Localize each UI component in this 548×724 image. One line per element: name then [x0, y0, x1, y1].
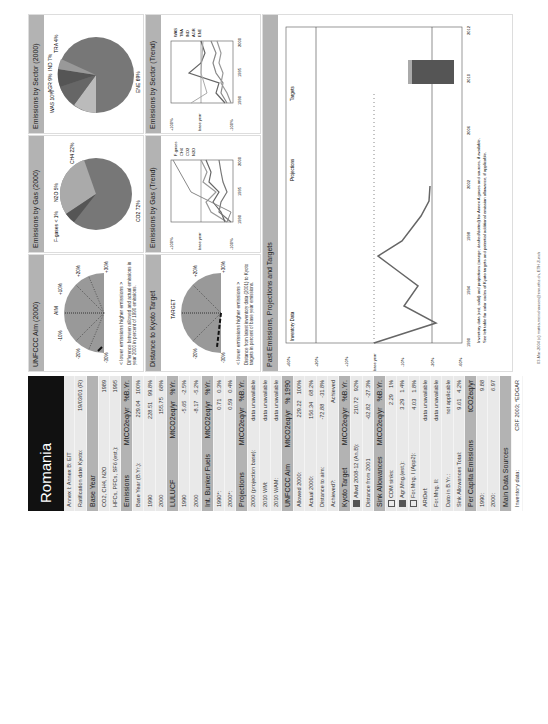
svg-text:-20%: -20%: [430, 357, 435, 367]
value-pct: % 1990: [284, 380, 291, 404]
gauge-caption: Difference between allowed and actual em…: [124, 255, 140, 371]
label-text: Allowed 2000:: [296, 472, 302, 507]
row-values: MtCO2eq/yr%Yr.: [169, 380, 176, 439]
value-pct: data unavailable: [433, 380, 439, 421]
label-text: ARtDef:: [422, 487, 428, 507]
label-text: Dato in B.Yr.:: [445, 474, 451, 507]
label-text: 1990*:: [216, 491, 222, 507]
value-abs: 210.72: [353, 397, 359, 414]
svg-text:-100%: -100%: [229, 238, 234, 250]
value-abs: 0.71: [216, 399, 222, 410]
sidebar-row: 1990*:0.710.3%: [214, 376, 225, 511]
row-label: 1990: [147, 495, 153, 507]
row-values: 2.291%: [388, 380, 394, 405]
label-text: 2000: [193, 495, 199, 507]
svg-text:TARGET: TARGET: [170, 299, 176, 319]
label-text: Ratification date Kyoto:: [77, 449, 83, 507]
row-values: 155.7568%: [158, 380, 164, 414]
sidebar-section-header: Int. Bunker FuelsMtCO2eq/yr%Yr.: [202, 376, 214, 511]
svg-text:1995: 1995: [237, 67, 242, 77]
country-title: Romania: [28, 376, 64, 511]
row-label: Distance from 2001: [365, 458, 371, 507]
row-label: Sink Allowances Total:: [456, 452, 462, 507]
value-abs: MtCO2eq/yr: [284, 410, 291, 448]
value-pct: data unavailable: [422, 380, 428, 421]
row-label: For.Mng. II:: [433, 479, 439, 507]
color-swatch-icon: [388, 500, 395, 507]
svg-text:CO2 72%: CO2 72%: [135, 200, 141, 222]
label-text: Annex I: Annex B: EIT: [66, 452, 72, 507]
sidebar-row: 1990-5.65-2.5%: [179, 376, 190, 511]
value-abs: 3.29: [399, 399, 405, 410]
label-text: Projections: [238, 472, 245, 507]
color-swatch-icon: [410, 500, 417, 507]
label-text: 2000: [158, 495, 164, 507]
sidebar-row: Actual 2000:156.3468.2%: [305, 376, 316, 511]
value-pct: %B.Yr.: [341, 380, 348, 401]
sidebar-section-header: LULUCFMtCO2eq/yr%Yr.: [167, 376, 179, 511]
svg-text:2000: 2000: [237, 156, 242, 166]
row-label: Base Year (B.Yr.):: [135, 463, 141, 507]
gauge-caption: Distance from latest inventory data (200…: [241, 255, 257, 371]
row-values: data unavailable: [273, 380, 279, 427]
value-pct: 100%: [296, 380, 302, 394]
sidebar-row: Achieved?:Achieved: [328, 376, 339, 511]
row-values: -72.88-31.8%: [319, 380, 325, 420]
row-label: Actual 2000:: [308, 476, 314, 507]
value-pct: 99.8%: [147, 380, 153, 396]
label-text: Sink Allowances Total:: [456, 452, 462, 507]
label-text: Agr.Mng.(est.):: [399, 461, 405, 498]
sector-trend-panel: Emissions by Sector (Trend) +100%base ye…: [145, 14, 261, 134]
panel-title: Emissions by Gas (2000): [29, 136, 44, 252]
value-pct: 68.2%: [308, 380, 314, 396]
svg-text:Targets: Targets: [290, 85, 295, 101]
value-pct: -2.5%: [181, 380, 187, 395]
country-sidebar: Romania Annex I: Annex B: EITRatificatio…: [28, 376, 511, 511]
past-emissions-panel: Past Emissions, Projections and Targets …: [262, 14, 513, 372]
sidebar-table: Annex I: Annex B: EITRatification date K…: [64, 376, 523, 511]
svg-text:AGR 9%: AGR 9%: [47, 73, 53, 93]
sidebar-row: 2000*:0.590.4%: [225, 376, 236, 511]
svg-text:-60%: -60%: [458, 357, 463, 367]
row-values: 228.5199.8%: [147, 380, 153, 419]
row-values: not applicable: [445, 380, 451, 421]
sidebar-row: 2000-8.17-5.2%: [190, 376, 201, 511]
value-pct: 1995: [112, 380, 118, 392]
panel-title: Emissions by Sector (Trend): [146, 15, 161, 133]
sector-trend-chart: +100%base year-100% 199019952000 WAS TRA…: [161, 15, 259, 133]
label-text: Actual 2000:: [308, 476, 314, 507]
row-values: MtCO2eq/yr%B.Yr.: [341, 380, 348, 445]
sidebar-row: 2000:6.97: [488, 376, 499, 511]
svg-text:-30%: -30%: [221, 352, 226, 363]
color-swatch-icon: [353, 500, 360, 507]
row-values: 19/03/01 (R): [77, 380, 83, 417]
row-label: 2000*:: [227, 491, 233, 507]
svg-text:CH4 22%: CH4 22%: [69, 142, 75, 164]
row-label: Projections: [238, 472, 245, 507]
svg-text:-20%: -20%: [76, 348, 81, 359]
label-text: Sink Allowances: [376, 456, 383, 507]
value-pct: 1.8%: [411, 380, 417, 393]
color-swatch-icon: [399, 500, 406, 507]
label-text: 1990:: [479, 493, 485, 507]
sidebar-section-header: Main Data Sources: [500, 376, 512, 511]
svg-text:-100%: -100%: [229, 119, 234, 131]
value-pct: 9.88: [479, 380, 485, 391]
row-values: MtCO2eq/yr%B.Yr.: [123, 380, 130, 445]
svg-text:AGR: AGR: [191, 28, 196, 37]
panel-title: Distance to Kyoto Target: [146, 255, 161, 371]
value-pct: 0.4%: [227, 380, 233, 393]
svg-text:base year: base year: [197, 113, 202, 131]
value-pct: 19/03/01 (R): [77, 380, 83, 411]
row-values: 1995: [112, 380, 118, 398]
row-values: MtCO2eq/yr%Yr.: [204, 380, 211, 439]
kyoto-distance-panel: Distance to Kyoto Target TARGET -30%+30%…: [145, 254, 261, 372]
value-pct: 4.2%: [456, 380, 462, 393]
sidebar-row: CO2, CH4, N2O1989: [99, 376, 110, 511]
svg-text:Projections: Projections: [290, 158, 295, 181]
label-text: 2010 WM:: [262, 482, 268, 508]
gas-trend-panel: Emissions by Gas (Trend) +100%base year-…: [145, 135, 261, 253]
row-label: Dato in B.Yr.:: [445, 474, 451, 507]
sidebar-section-header: UNFCCC AimMtCO2eq/yr% 1990: [282, 376, 294, 511]
row-label: 2000: [158, 495, 164, 507]
